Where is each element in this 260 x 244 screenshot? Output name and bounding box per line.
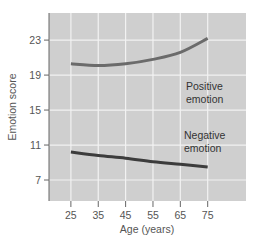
x-tick-label: 45	[120, 209, 132, 221]
y-tick-label: 15	[29, 104, 41, 116]
y-axis-title: Emotion score	[6, 73, 18, 140]
y-tick-label: 11	[30, 139, 41, 151]
plot-area	[49, 13, 246, 201]
y-axis-ticks: 231915117	[29, 34, 49, 186]
x-tick-label: 55	[147, 209, 159, 221]
x-tick-label: 75	[202, 209, 214, 221]
y-tick-label: 23	[29, 34, 41, 46]
x-tick-label: 35	[92, 209, 104, 221]
x-axis-title: Age (years)	[120, 223, 174, 235]
y-tick-label: 19	[29, 69, 41, 81]
line-chart: 231915117 253545556575 Positive emotion …	[0, 0, 260, 244]
x-axis-ticks: 253545556575	[65, 201, 214, 221]
x-tick-label: 65	[174, 209, 186, 221]
positive-emotion-label: Positive emotion	[186, 80, 226, 105]
y-tick-label: 7	[35, 174, 41, 186]
x-tick-label: 25	[65, 209, 77, 221]
